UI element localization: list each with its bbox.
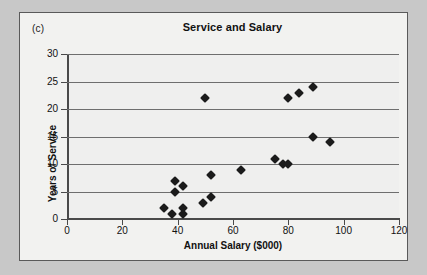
y-tick: [61, 54, 67, 55]
gridline: [67, 164, 399, 165]
y-tick: [61, 137, 67, 138]
gridline: [67, 54, 399, 55]
chart-card: (c) Service and Salary 051015202530 0204…: [19, 12, 408, 261]
gridline: [67, 192, 399, 193]
y-tick: [61, 82, 67, 83]
plot-wrapper: 051015202530 020406080100120 Years of Se…: [20, 13, 409, 262]
x-tick-label: 20: [102, 225, 142, 236]
y-tick: [61, 192, 67, 193]
gridline: [67, 137, 399, 138]
screenshot-root: (c) Service and Salary 051015202530 0204…: [0, 0, 427, 275]
x-tick-label: 100: [324, 225, 364, 236]
y-tick: [61, 164, 67, 165]
x-tick-label: 60: [213, 225, 253, 236]
y-tick: [61, 109, 67, 110]
x-tick-label: 0: [47, 225, 87, 236]
gridline: [67, 82, 399, 83]
y-axis-title-holder: Years of Service: [28, 73, 44, 203]
x-tick-label: 120: [379, 225, 419, 236]
x-tick-label: 40: [158, 225, 198, 236]
y-tick-label: 30: [32, 48, 58, 59]
y-axis-title: Years of Service: [47, 104, 58, 224]
x-axis-title: Annual Salary ($000): [67, 240, 399, 251]
gridline: [67, 109, 399, 110]
x-tick-label: 80: [268, 225, 308, 236]
